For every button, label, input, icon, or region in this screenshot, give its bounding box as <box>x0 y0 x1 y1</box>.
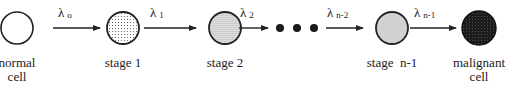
node-label-stage-2: stage 2 <box>195 56 255 70</box>
ellipsis-dot-icon <box>293 24 301 32</box>
node-label-stage-n-1: stage n-1 <box>357 56 427 70</box>
label-line: normal <box>0 56 47 70</box>
rate-subscript: n-2 <box>336 10 348 20</box>
lambda-symbol: λ <box>327 5 333 20</box>
lambda-symbol: λ <box>240 5 246 20</box>
label-line: stage 1 <box>93 56 153 70</box>
ellipsis-dot-icon <box>276 24 284 32</box>
rate-subscript: n-1 <box>423 10 435 20</box>
lambda-symbol: λ <box>58 5 64 20</box>
stage-n-1-node <box>376 12 408 44</box>
stage-2-node <box>209 12 241 44</box>
rate-label-1: λ1 <box>150 5 164 21</box>
label-line: malignant <box>444 56 514 70</box>
lambda-symbol: λ <box>414 5 420 20</box>
rate-subscript: 1 <box>159 10 164 20</box>
label-line: cell <box>0 70 47 84</box>
ellipsis-dot-icon <box>310 24 318 32</box>
malignant-cell-node <box>462 11 496 45</box>
rate-label-2: λ2 <box>240 5 254 21</box>
rate-label-0: λo <box>58 5 72 21</box>
label-line: stage 2 <box>195 56 255 70</box>
label-line: stage n-1 <box>357 56 427 70</box>
rate-label-n-2: λn-2 <box>327 5 348 21</box>
node-label-normal: normal cell <box>0 56 47 84</box>
normal-cell-node <box>1 12 33 44</box>
label-line: cell <box>444 70 514 84</box>
rate-subscript: o <box>67 10 72 20</box>
stage-1-node <box>107 12 139 44</box>
node-label-malignant: malignant cell <box>444 56 514 84</box>
node-label-stage-1: stage 1 <box>93 56 153 70</box>
lambda-symbol: λ <box>150 5 156 20</box>
rate-label-n-1: λn-1 <box>414 5 435 21</box>
rate-subscript: 2 <box>249 10 254 20</box>
